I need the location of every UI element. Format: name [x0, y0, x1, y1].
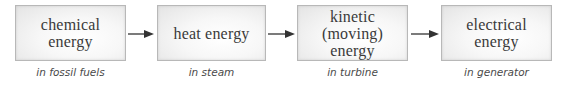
- energy-flow-diagram: chemical energy heat energy kinetic (mov…: [0, 0, 571, 89]
- stage-caption: in fossil fuels: [15, 66, 126, 82]
- stage-box-electrical-energy: electrical energy: [441, 5, 552, 61]
- stage-label: electrical energy: [466, 16, 527, 50]
- stage-label: chemical energy: [41, 16, 100, 50]
- stage-caption: in generator: [441, 66, 552, 82]
- stage-box-kinetic-energy: kinetic (moving) energy: [297, 5, 408, 61]
- stage-box-chemical-energy: chemical energy: [15, 5, 126, 61]
- stage-label: kinetic (moving) energy: [322, 8, 383, 59]
- stage-caption: in steam: [157, 66, 266, 82]
- stage-caption: in turbine: [297, 66, 408, 82]
- stage-box-heat-energy: heat energy: [157, 5, 266, 61]
- stage-label: heat energy: [173, 25, 249, 42]
- right-arrow-icon: [128, 29, 154, 39]
- right-arrow-icon: [268, 29, 295, 39]
- right-arrow-icon: [411, 29, 439, 39]
